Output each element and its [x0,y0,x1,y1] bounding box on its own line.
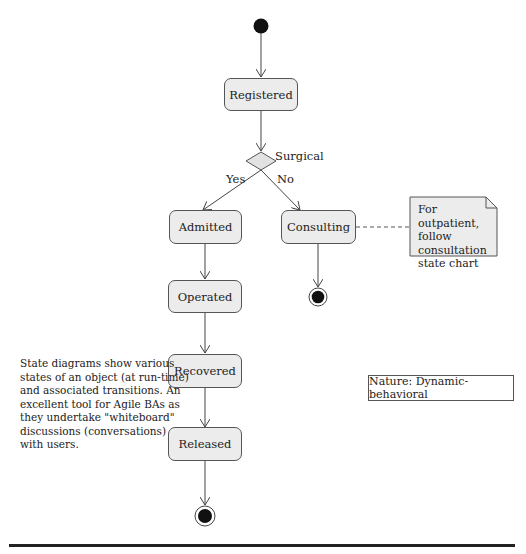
guard-no: No [277,172,294,186]
state-label: Admitted [179,220,233,234]
guard-yes: Yes [226,172,245,186]
note-outpatient: For outpatient, follow consultation stat… [410,197,497,256]
decision-diamond [246,152,276,170]
state-registered: Registered [224,78,298,111]
state-label: Registered [229,88,293,102]
state-label: Operated [178,290,233,304]
decision-label: Surgical [275,149,324,163]
nature-box: Nature: Dynamic-behavioral [368,375,514,401]
state-consulting: Consulting [281,210,356,244]
bottom-rule [9,544,515,547]
initial-node [254,19,269,34]
state-admitted: Admitted [169,210,242,244]
state-label: Consulting [287,220,350,234]
description-text: State diagrams show various states of an… [20,357,190,452]
state-operated: Operated [168,280,242,313]
